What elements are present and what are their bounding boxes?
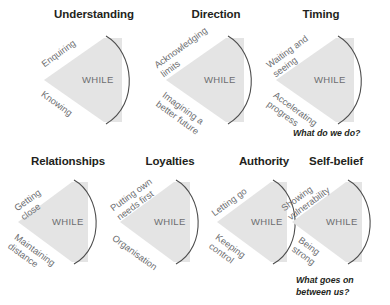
row-caption-top: What do we do? [293,128,360,140]
cell-title-direction: Direction [150,8,282,20]
while-label-loyalties: WHILE [154,216,186,227]
wedge-direction: WHILE Acknowledging limits Imagining a b… [158,30,278,130]
while-label-understanding: WHILE [82,74,114,85]
while-label-direction: WHILE [204,74,236,85]
wedge-self-belief: WHILE Showing vulnerability Being strong [284,175,390,275]
while-label-self-belief: WHILE [326,216,358,227]
while-label-relationships: WHILE [52,216,84,227]
while-label-timing: WHILE [314,74,346,85]
cell-title-understanding: Understanding [28,8,160,20]
cell-title-self-belief: Self-belief [286,155,386,167]
wedge-timing: WHILE Waiting and seeing Accelerating pr… [268,30,388,130]
while-label-authority: WHILE [251,216,283,227]
polarity-cell-understanding: Understanding WHILE Enquiring Knowing [28,8,160,140]
cell-title-timing: Timing [266,8,376,20]
polarity-diagram-canvas: Understanding WHILE Enquiring Knowing Di… [0,0,390,305]
wedge-understanding: WHILE Enquiring Knowing [36,30,156,130]
row-caption-bottom: What goes on between us? [296,275,354,299]
polarity-cell-direction: Direction WHILE Acknowledging limits Ima… [150,8,282,140]
polarity-cell-timing: Timing WHILE Waiting and seeing Accelera… [266,8,390,140]
polarity-cell-self-belief: Self-belief WHILE Showing vulnerability … [286,155,390,295]
